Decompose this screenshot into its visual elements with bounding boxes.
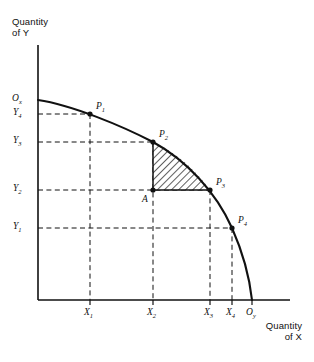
- point-a: [150, 187, 155, 192]
- point-p4: [229, 225, 234, 230]
- y-tick-label-y2: Y2: [13, 183, 22, 195]
- y-axis-origin-label: Ox: [12, 93, 22, 105]
- point-p1: [87, 111, 92, 116]
- y-axis-title: Quantity of Y: [12, 16, 48, 38]
- point-p2: [150, 139, 155, 144]
- horizontal-guide-lines: [38, 114, 232, 228]
- opportunity-cost-region: [153, 142, 210, 190]
- x-tick-label-x1: X1: [84, 307, 93, 319]
- plot-canvas: [0, 0, 314, 362]
- point-label-p3: P3: [216, 177, 225, 189]
- point-label-p1: P1: [96, 101, 105, 113]
- y-tick-label-y4: Y4: [13, 107, 22, 119]
- y-tick-label-y3: Y3: [13, 135, 22, 147]
- vertical-guide-lines: [90, 114, 232, 300]
- y-tick-label-y1: Y1: [13, 221, 22, 233]
- x-axis-origin-label: Oy: [246, 307, 256, 319]
- point-p3: [207, 187, 212, 192]
- x-tick-label-x2: X2: [147, 307, 156, 319]
- point-label-a: A: [142, 194, 148, 204]
- x-tick-label-x3: X3: [204, 307, 213, 319]
- x-tick-label-x4: X4: [226, 307, 235, 319]
- x-axis-title: Quantity of X: [236, 320, 302, 342]
- point-label-p4: P4: [238, 215, 247, 227]
- point-label-p2: P2: [159, 129, 168, 141]
- ppf-diagram: Quantity of Y Quantity of X Ox Y4 Y3 Y2 …: [0, 0, 314, 362]
